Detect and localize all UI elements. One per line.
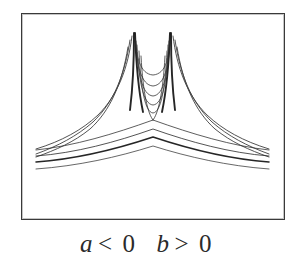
outer-branches-right: [173, 36, 269, 157]
lower-arc-3: [36, 137, 269, 162]
figure-root: a<0b>0: [0, 0, 297, 271]
caption-relation-b: >: [175, 230, 190, 257]
caption-value-b: 0: [199, 230, 212, 257]
outer-flare-left-2: [36, 40, 130, 154]
outer-flare-right-2: [175, 40, 269, 154]
lower-arc-1: [36, 120, 269, 150]
figure-caption: a<0b>0: [0, 229, 297, 259]
lower-arcs: [36, 120, 269, 169]
caption-condition-b: b: [157, 230, 170, 257]
outer-flare-right-1: [173, 36, 269, 149]
caption-value-a: 0: [123, 230, 136, 257]
outer-branches-left: [36, 36, 132, 157]
lower-arc-2: [36, 129, 269, 156]
caption-condition-a: a: [80, 230, 93, 257]
outer-flare-right-3: [177, 47, 269, 157]
caption-relation-a: <: [98, 230, 113, 257]
plot-frame: [21, 13, 285, 220]
outer-flare-left-3: [36, 47, 128, 157]
level-curve-plot: [22, 14, 286, 221]
